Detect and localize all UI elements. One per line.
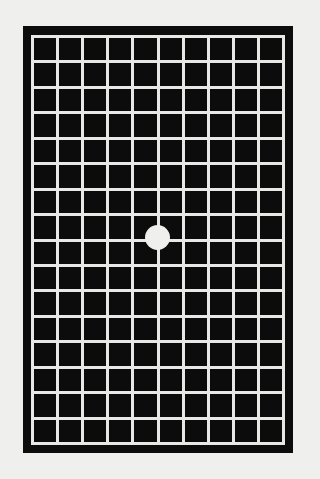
grid-cell — [260, 292, 282, 314]
grid-cell — [84, 38, 106, 60]
grid-cell — [210, 318, 232, 340]
grid-cell — [59, 394, 81, 416]
grid-cell — [134, 114, 156, 136]
grid-cell — [235, 369, 257, 391]
grid-cell — [235, 343, 257, 365]
grid-cell — [84, 242, 106, 264]
grid-cell — [185, 191, 207, 213]
grid-cell — [109, 216, 131, 238]
grid-cell — [185, 242, 207, 264]
grid-cell — [134, 267, 156, 289]
grid-cell — [210, 267, 232, 289]
grid-cell — [185, 216, 207, 238]
grid-cell — [185, 165, 207, 187]
grid-cell — [34, 420, 56, 442]
grid-cell — [109, 89, 131, 111]
grid-cell — [235, 242, 257, 264]
grid-cell — [34, 165, 56, 187]
grid-cell — [185, 63, 207, 85]
grid-cell — [134, 89, 156, 111]
grid-cell — [235, 114, 257, 136]
grid-cell — [134, 165, 156, 187]
grid-cell — [134, 318, 156, 340]
grid-cell — [59, 420, 81, 442]
grid-cell — [34, 292, 56, 314]
grid-cell — [84, 394, 106, 416]
center-fixation-dot — [145, 225, 170, 250]
grid-cell — [59, 114, 81, 136]
grid-cell — [34, 89, 56, 111]
grid-cell — [84, 114, 106, 136]
grid-cell — [210, 38, 232, 60]
grid-cell — [260, 369, 282, 391]
grid-cell — [34, 216, 56, 238]
grid-cell — [185, 343, 207, 365]
grid-cell — [84, 216, 106, 238]
grid-cell — [260, 318, 282, 340]
grid-cell — [84, 420, 106, 442]
grid-cell — [109, 394, 131, 416]
grid-cell — [210, 63, 232, 85]
grid-cell — [160, 369, 182, 391]
grid-cell — [59, 369, 81, 391]
grid-cell — [59, 292, 81, 314]
grid-cell — [185, 292, 207, 314]
grid-cell — [34, 114, 56, 136]
grid-cell — [109, 420, 131, 442]
grid-cell — [235, 38, 257, 60]
grid-cell — [109, 343, 131, 365]
grid-cell — [59, 63, 81, 85]
grid-cell — [160, 63, 182, 85]
grid-cell — [84, 369, 106, 391]
grid-cell — [210, 89, 232, 111]
grid-cell — [109, 38, 131, 60]
grid-cell — [109, 369, 131, 391]
grid-cell — [260, 216, 282, 238]
grid-cell — [160, 38, 182, 60]
grid-cell — [59, 318, 81, 340]
grid-cell — [134, 140, 156, 162]
grid-cell — [235, 318, 257, 340]
grid-cell — [210, 420, 232, 442]
grid-cell — [34, 267, 56, 289]
grid-cell — [235, 140, 257, 162]
grid-cell — [260, 191, 282, 213]
grid-cell — [160, 267, 182, 289]
grid-cell — [134, 63, 156, 85]
grid-cell — [235, 420, 257, 442]
grid-cell — [210, 191, 232, 213]
grid-cell — [260, 140, 282, 162]
grid-cell — [109, 242, 131, 264]
grid-cell — [160, 191, 182, 213]
grid-cell — [34, 242, 56, 264]
grid-cell — [260, 394, 282, 416]
grid-cell — [260, 38, 282, 60]
grid-cell — [185, 89, 207, 111]
grid-cell — [59, 343, 81, 365]
grid-cell — [235, 165, 257, 187]
grid-cell — [260, 165, 282, 187]
grid-cell — [84, 63, 106, 85]
grid-cell — [34, 191, 56, 213]
grid-cell — [160, 165, 182, 187]
grid-cell — [160, 140, 182, 162]
grid-cell — [210, 165, 232, 187]
grid-cell — [235, 292, 257, 314]
grid-cell — [235, 267, 257, 289]
grid-cell — [260, 114, 282, 136]
grid-cell — [59, 38, 81, 60]
grid-cell — [185, 114, 207, 136]
grid-cell — [59, 140, 81, 162]
grid-cell — [109, 292, 131, 314]
grid-cell — [160, 420, 182, 442]
grid-cell — [235, 394, 257, 416]
grid-cell — [134, 191, 156, 213]
grid-cell — [235, 63, 257, 85]
grid-cell — [260, 420, 282, 442]
grid-cell — [84, 140, 106, 162]
grid-cell — [109, 318, 131, 340]
grid-cell — [260, 89, 282, 111]
grid-cell — [210, 369, 232, 391]
grid-cell — [34, 369, 56, 391]
grid-cell — [160, 89, 182, 111]
